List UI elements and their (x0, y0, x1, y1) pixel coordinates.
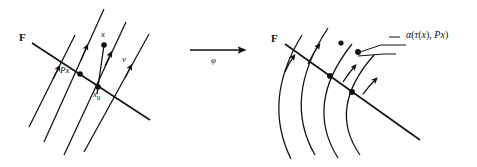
label-foliation-right: F (271, 33, 278, 44)
label-point-x: x (101, 30, 105, 39)
leaf-line-2-arrow (81, 46, 87, 60)
arc-line-2 (301, 28, 328, 155)
point-x-dot (101, 42, 107, 48)
point-right-dot-4 (338, 40, 343, 45)
leaf-line-4-arrow (125, 66, 131, 78)
right-panel-group (279, 28, 420, 159)
label-phi-map: φ (211, 56, 216, 65)
leader-line-lower (358, 54, 396, 56)
left-panel-group (29, 9, 150, 155)
label-point-x0: x0 (93, 90, 100, 101)
point-right-dot-1 (327, 73, 333, 79)
leaf-line-2 (44, 9, 104, 142)
arc-line-3-arrow (343, 66, 355, 82)
label-vector-v: v (122, 55, 126, 64)
arc-line-4-arrow (363, 79, 376, 94)
point-px-dot (77, 71, 83, 77)
arc-lines-group (279, 28, 376, 159)
label-point-px: Px (60, 66, 70, 75)
point-right-dot-2 (349, 89, 355, 95)
leaf-lines-group (29, 9, 149, 155)
formula-comma: , (429, 29, 432, 40)
leaf-line-1-arrow (53, 67, 59, 79)
label-point-x0-subscript: 0 (97, 94, 100, 101)
diagram-vector-layer (0, 0, 477, 167)
formula-px: Px (434, 29, 445, 40)
leaf-line-3-arrow (105, 53, 111, 66)
figure-canvas: F x Px x0 v φ F α(τ(x), Px) (0, 0, 477, 167)
leader-line-upper (360, 45, 406, 52)
leaf-line-1 (29, 35, 75, 127)
label-foliation-left: F (19, 32, 26, 43)
transversal-line-left (32, 43, 150, 120)
formula-close-paren: ) (445, 29, 448, 40)
label-formula-alpha-tau-px: α(τ(x), Px) (406, 30, 448, 40)
